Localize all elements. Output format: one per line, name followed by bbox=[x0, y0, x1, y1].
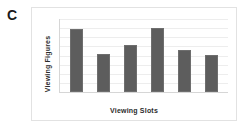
chart-container: Viewing Figures Viewing Slots bbox=[31, 7, 237, 121]
figure-panel-c: C Viewing Figures Viewing Slots bbox=[0, 0, 245, 131]
bar-slot bbox=[63, 19, 90, 92]
bar-slot bbox=[198, 19, 225, 92]
bar-slot bbox=[144, 19, 171, 92]
panel-letter: C bbox=[7, 8, 17, 22]
bar-slot bbox=[171, 19, 198, 92]
bar-1 bbox=[70, 29, 83, 92]
x-axis-label: Viewing Slots bbox=[32, 107, 236, 114]
bar-slot bbox=[117, 19, 144, 92]
bar-5 bbox=[178, 50, 191, 92]
bar-3 bbox=[124, 45, 137, 92]
plot-area bbox=[59, 19, 228, 93]
bar-2 bbox=[97, 54, 110, 92]
bar-4 bbox=[151, 28, 164, 92]
bar-series bbox=[60, 19, 228, 92]
y-axis-label: Viewing Figures bbox=[44, 29, 51, 99]
bar-6 bbox=[205, 55, 218, 92]
bar-slot bbox=[90, 19, 117, 92]
